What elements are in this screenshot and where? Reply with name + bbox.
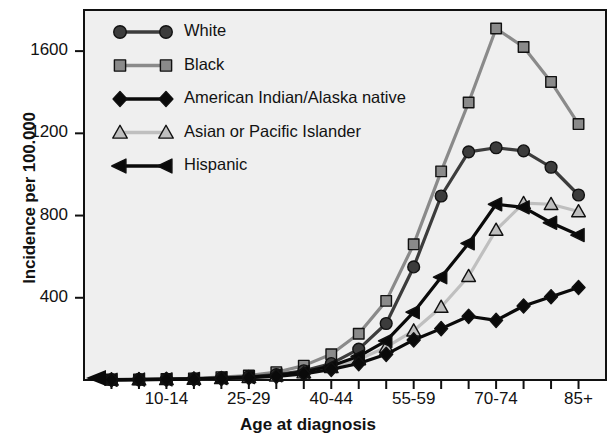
data-point-marker <box>381 296 392 307</box>
y-axis-ticks <box>75 51 84 298</box>
legend-item-label: Black <box>184 55 224 74</box>
data-point-marker <box>353 328 364 339</box>
data-point-marker <box>518 42 529 53</box>
x-axis-title: Age at diagnosis <box>0 415 616 435</box>
data-point-marker <box>463 146 475 158</box>
data-point-marker <box>573 119 584 130</box>
y-tick-label: 800 <box>8 205 68 225</box>
x-tick-label: 85+ <box>544 389 614 409</box>
data-point-marker <box>408 239 419 250</box>
data-point-marker <box>545 161 557 173</box>
data-point-marker <box>436 166 447 177</box>
x-tick-label: 40-44 <box>296 389 366 409</box>
data-point-marker <box>463 97 474 108</box>
x-axis-ticks <box>111 380 578 389</box>
incidence-by-age-chart: Incidence per 100.000 Age at diagnosis 4… <box>0 0 616 435</box>
x-tick-label: 70-74 <box>461 389 531 409</box>
data-point-marker <box>518 145 530 157</box>
y-tick-label: 1200 <box>8 122 68 142</box>
data-point-marker <box>546 77 557 88</box>
chart-canvas <box>0 0 616 435</box>
y-tick-label: 1600 <box>8 40 68 60</box>
data-point-marker <box>408 261 420 273</box>
x-tick-label: 55-59 <box>379 389 449 409</box>
x-tick-label: 25-29 <box>214 389 284 409</box>
data-point-marker <box>114 60 125 71</box>
data-point-marker <box>490 142 502 154</box>
data-point-marker <box>435 190 447 202</box>
data-point-marker <box>380 318 392 330</box>
y-tick-label: 400 <box>8 287 68 307</box>
data-point-marker <box>114 26 127 39</box>
data-point-marker <box>491 23 502 34</box>
x-tick-label: 10-14 <box>131 389 201 409</box>
legend-item-label: White <box>184 21 226 40</box>
legend-item-label: Asian or Pacific Islander <box>184 122 361 141</box>
data-point-marker <box>573 189 585 201</box>
legend-item-label: Hispanic <box>184 155 247 174</box>
data-point-marker <box>160 26 173 39</box>
data-point-marker <box>160 60 171 71</box>
legend-item-label: American Indian/Alaska native <box>184 88 406 107</box>
